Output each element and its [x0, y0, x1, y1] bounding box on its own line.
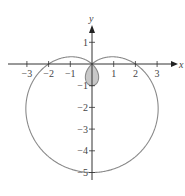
y-tick-label: −5	[77, 167, 88, 178]
x-axis-label: x	[178, 59, 184, 70]
y-tick-label: −3	[77, 124, 88, 135]
x-tick-label: −2	[43, 68, 54, 79]
y-tick-label: 1	[83, 37, 88, 48]
y-axis-label: y	[88, 13, 94, 24]
y-tick-label: −2	[77, 102, 88, 113]
y-tick-label: −4	[77, 145, 88, 156]
y-tick-label: −1	[77, 80, 88, 91]
x-tick-label: −1	[65, 68, 76, 79]
y-axis-arrow-icon	[89, 25, 95, 33]
x-tick-label: −3	[22, 68, 33, 79]
polar-chart: x y −3−2−11231−1−2−3−4−5	[0, 0, 185, 196]
x-tick-label: 2	[133, 68, 138, 79]
x-tick-label: 3	[155, 68, 160, 79]
x-axis-arrow-icon	[171, 61, 178, 67]
tick-group: −3−2−11231−1−2−3−4−5	[22, 37, 160, 178]
x-tick-label: 1	[111, 68, 116, 79]
